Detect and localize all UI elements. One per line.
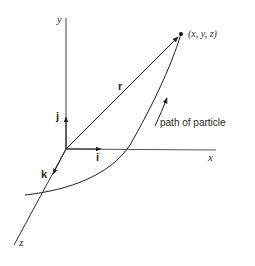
position-vector-r — [66, 37, 178, 149]
k-unit-vector — [53, 149, 66, 174]
z-axis-label: z — [19, 237, 23, 247]
point-coordinates-label: (x, y, z) — [188, 29, 217, 39]
i-label: i — [96, 152, 99, 162]
diagram-canvas — [0, 0, 255, 266]
particle-point — [179, 32, 183, 36]
r-label: r — [118, 81, 122, 91]
particle-path-curve — [25, 34, 181, 195]
y-axis-label: y — [57, 14, 62, 24]
x-axis-label: x — [208, 152, 213, 162]
j-label: j — [56, 111, 59, 121]
path-label: path of particle — [160, 118, 226, 128]
k-label: k — [41, 169, 47, 179]
